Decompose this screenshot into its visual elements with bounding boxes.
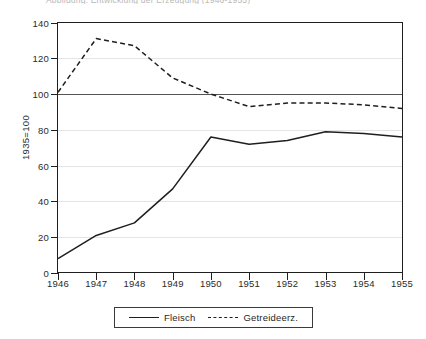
x-tick-label: 1946 <box>38 278 78 289</box>
x-tick-label: 1950 <box>191 278 231 289</box>
legend-label-getreideerz: Getreideerz. <box>243 312 298 323</box>
y-tick-mark <box>51 94 58 95</box>
y-tick-mark <box>51 273 58 274</box>
reference-line-100 <box>58 94 402 95</box>
gridline <box>58 58 402 59</box>
legend-solid-line-icon <box>129 314 159 321</box>
gridline <box>58 130 402 131</box>
legend-label-fleisch: Fleisch <box>164 312 196 323</box>
y-tick-mark <box>51 23 58 24</box>
legend-dashed-line-icon <box>208 314 238 321</box>
x-tick-label: 1948 <box>114 278 154 289</box>
legend-item-getreideerz: Getreideerz. <box>208 312 298 323</box>
y-tick-label: 140 <box>15 17 49 28</box>
y-tick-mark <box>51 237 58 238</box>
x-tick-label: 1949 <box>153 278 193 289</box>
x-tick-label: 1952 <box>267 278 307 289</box>
gridline <box>58 237 402 238</box>
y-tick-label: 0 <box>15 268 49 279</box>
plot-area <box>57 22 403 273</box>
x-tick-label: 1951 <box>229 278 269 289</box>
y-tick-mark <box>51 166 58 167</box>
x-tick-label: 1947 <box>76 278 116 289</box>
y-tick-label: 60 <box>15 160 49 171</box>
legend-item-fleisch: Fleisch <box>129 312 196 323</box>
y-tick-label: 120 <box>15 53 49 64</box>
y-tick-label: 100 <box>15 89 49 100</box>
x-tick-label: 1953 <box>306 278 346 289</box>
y-tick-label: 20 <box>15 232 49 243</box>
y-tick-label: 80 <box>15 124 49 135</box>
clipped-caption: Abbildung: Entwicklung der Erzeugung (19… <box>46 0 376 4</box>
y-tick-label: 40 <box>15 196 49 207</box>
y-tick-mark <box>51 58 58 59</box>
x-tick-label: 1955 <box>382 278 422 289</box>
chart-legend: Fleisch Getreideerz. <box>114 307 313 328</box>
gridline <box>58 201 402 202</box>
y-tick-mark <box>51 201 58 202</box>
y-tick-mark <box>51 130 58 131</box>
x-tick-label: 1954 <box>344 278 384 289</box>
gridline <box>58 166 402 167</box>
chart-figure: Abbildung: Entwicklung der Erzeugung (19… <box>0 0 426 339</box>
